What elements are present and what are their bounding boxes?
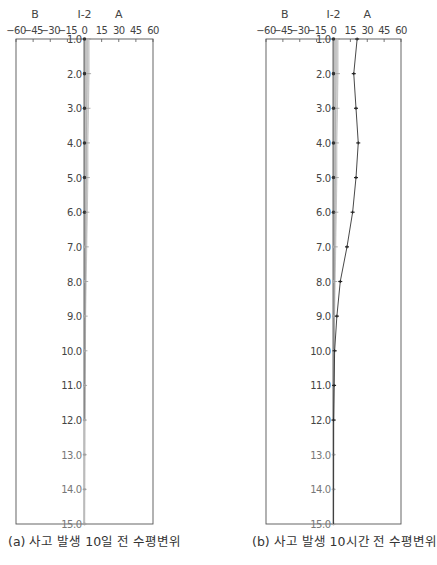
depth-marker xyxy=(83,176,87,180)
depth-label: 13.0 xyxy=(310,450,330,461)
depth-label: 12.0 xyxy=(310,415,330,426)
depth-label: 12.0 xyxy=(61,415,81,426)
axis-label-i2: I-2 xyxy=(77,8,91,21)
depth-label: 11.0 xyxy=(61,380,81,391)
x-tick-label: 60 xyxy=(147,25,159,36)
depth-label: 10.0 xyxy=(61,346,81,357)
depth-label: 15.0 xyxy=(310,519,330,530)
axis-label-a: A xyxy=(363,8,371,21)
axis-label-i2: I-2 xyxy=(326,8,340,21)
depth-marker xyxy=(83,106,87,110)
depth-label: 10.0 xyxy=(310,346,330,357)
axis-label-a: A xyxy=(115,8,123,21)
depth-label: 2.0 xyxy=(67,69,82,80)
depth-label: 4.0 xyxy=(316,138,331,149)
x-tick-label: 60 xyxy=(395,25,407,36)
depth-label: 8.0 xyxy=(316,277,331,288)
depth-label: 6.0 xyxy=(316,207,331,218)
depth-marker xyxy=(332,37,336,41)
depth-label: 3.0 xyxy=(316,103,331,114)
x-tick-label: 45 xyxy=(130,25,142,36)
depth-label: 14.0 xyxy=(61,484,81,495)
depth-label: 6.0 xyxy=(67,207,82,218)
depth-label: 13.0 xyxy=(61,450,81,461)
depth-marker xyxy=(83,141,87,145)
depth-marker xyxy=(332,106,336,110)
x-tick-label: 15 xyxy=(96,25,108,36)
x-tick-label: 30 xyxy=(113,25,125,36)
x-tick-label: 0 xyxy=(331,25,337,36)
x-tick-label: 15 xyxy=(345,25,357,36)
depth-marker xyxy=(332,141,336,145)
depth-label: 15.0 xyxy=(61,519,81,530)
depth-label: 9.0 xyxy=(67,311,82,322)
depth-label: 7.0 xyxy=(316,242,331,253)
depth-label: 14.0 xyxy=(310,484,330,495)
depth-label: 3.0 xyxy=(67,103,82,114)
depth-marker xyxy=(332,176,336,180)
depth-label: 11.0 xyxy=(310,380,330,391)
depth-label: 5.0 xyxy=(67,173,82,184)
depth-marker xyxy=(83,37,87,41)
depth-label: 7.0 xyxy=(67,242,82,253)
depth-label: 2.0 xyxy=(316,69,331,80)
depth-label: 1.0 xyxy=(316,34,331,45)
depth-label: 8.0 xyxy=(67,277,82,288)
depth-label: 4.0 xyxy=(67,138,82,149)
depth-label: 9.0 xyxy=(316,311,331,322)
caption-b: (b) 사고 발생 10시간 전 수평변위 xyxy=(252,531,437,550)
chart-panel-a: BI-2A−60−45−30−150153045601.02.03.04.05.… xyxy=(6,8,159,530)
x-tick-label: 0 xyxy=(82,25,88,36)
chart-panel-b: BI-2A−60−45−30−150153045601.02.03.04.05.… xyxy=(256,8,407,530)
figure-caption-truncated xyxy=(0,556,418,565)
caption-a: (a) 사고 발생 10일 전 수평변위 xyxy=(8,531,181,550)
x-tick-label: 30 xyxy=(361,25,373,36)
depth-label: 5.0 xyxy=(316,173,331,184)
axis-label-b: B xyxy=(281,8,289,21)
x-tick-label: 45 xyxy=(378,25,390,36)
depth-label: 1.0 xyxy=(67,34,82,45)
axis-label-b: B xyxy=(31,8,39,21)
depth-marker xyxy=(332,72,336,76)
depth-marker xyxy=(83,72,87,76)
